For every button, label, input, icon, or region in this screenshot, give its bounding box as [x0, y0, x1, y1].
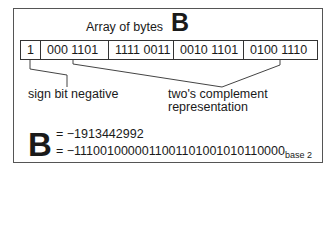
sign-bit-label: sign bit negative	[28, 88, 118, 101]
twos-complement-bracket	[73, 60, 280, 87]
binary-value: = −1110010000011001101001010110000	[56, 144, 285, 158]
base-label: base 2	[285, 150, 312, 160]
binary-value-line: = −1110010000011001101001010110000base 2	[56, 144, 312, 160]
twos-complement-label-2: representation	[168, 101, 248, 114]
result-variable-b: B	[28, 128, 52, 161]
decimal-value: = −1913442992	[56, 127, 144, 141]
sign-bit-connector	[30, 60, 67, 87]
